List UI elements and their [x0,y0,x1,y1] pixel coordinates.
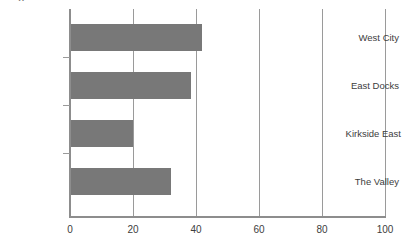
x-tick-label-100: 100 [365,224,405,235]
bar-west-city [70,24,202,51]
category-label-east-docks: East Docks [333,81,399,91]
x-tick-label-0: 0 [50,224,90,235]
x-tick-label-60: 60 [239,224,279,235]
y-axis-line [69,9,71,218]
x-axis-line [69,216,386,218]
gridline-80 [322,9,323,217]
bar-kirkside-east [70,120,133,147]
category-label-kirkside-east: Kirkside East [333,129,401,139]
category-label-west-city: West City [333,33,399,43]
y-axis-tick [63,105,70,106]
cropped-title-text: Figure [8,0,42,1]
y-axis-tick [63,153,70,154]
y-axis-tick [63,57,70,58]
x-tick-label-40: 40 [176,224,216,235]
bar-the-valley [70,168,171,195]
x-tick-label-80: 80 [302,224,342,235]
gridline-60 [259,9,260,217]
bar-east-docks [70,72,191,99]
x-tick-label-20: 20 [113,224,153,235]
category-label-the-valley: The Valley [333,177,399,187]
